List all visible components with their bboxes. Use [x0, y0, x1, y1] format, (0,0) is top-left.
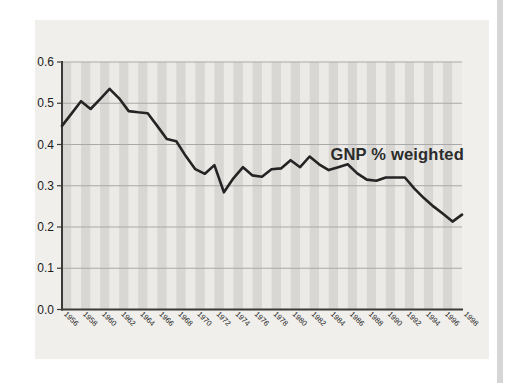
- y-tick-label: 0.3: [37, 179, 54, 193]
- gnp-line-chart: 0.00.10.20.30.40.50.61956195819601962196…: [0, 0, 515, 383]
- scanned-book-page: 0.00.10.20.30.40.50.61956195819601962196…: [0, 0, 515, 383]
- y-tick-label: 0.1: [37, 261, 54, 275]
- y-tick-label: 0.4: [37, 138, 54, 152]
- y-tick-label: 0.5: [37, 96, 54, 110]
- series-annotation: GNP % weighted: [330, 145, 464, 163]
- y-tick-label: 0.6: [37, 55, 54, 69]
- page-edge-shadow: [497, 0, 503, 383]
- y-tick-label: 0.2: [37, 220, 54, 234]
- y-tick-label: 0.0: [37, 303, 54, 317]
